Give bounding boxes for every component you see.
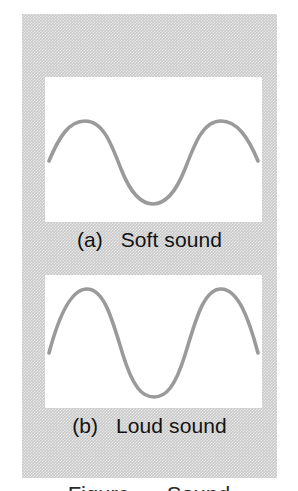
soft-sound-wave-path <box>49 121 258 204</box>
soft-sound-wave-svg <box>45 77 262 222</box>
loud-sound-wave-svg <box>45 275 262 408</box>
caption-loud-sound: (b) Loud sound <box>22 414 277 438</box>
loud-sound-wave-path <box>49 289 258 397</box>
figure-panel-background: (a) Soft sound (b) Loud sound <box>22 14 277 478</box>
cut-off-figure-caption: Figure Sound <box>0 482 298 491</box>
sound-amplitude-figure: (a) Soft sound (b) Loud sound Figure Sou… <box>0 0 298 491</box>
caption-soft-sound: (a) Soft sound <box>22 228 277 252</box>
waveform-plot-loud-sound <box>45 275 262 408</box>
waveform-plot-soft-sound <box>45 77 262 222</box>
